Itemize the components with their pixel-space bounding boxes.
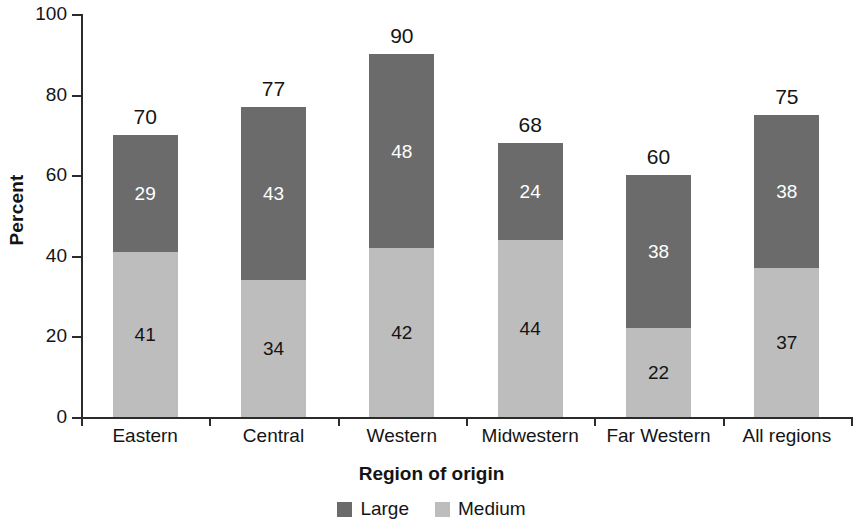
y-axis-tick-mark [72,14,81,16]
bar-segment-value: 29 [135,184,156,203]
legend-label: Large [360,498,409,520]
bar-group: 433477 [241,14,306,417]
x-axis-category-label: All regions [723,425,851,447]
x-axis-category-label: Central [209,425,337,447]
bar-segment-large[interactable]: 38 [626,175,691,328]
y-axis-tick-label: 80 [46,84,67,106]
bar-segment-value: 44 [520,319,541,338]
legend-item[interactable]: Medium [435,498,526,520]
x-axis-category-label: Eastern [81,425,209,447]
bar-segment-medium[interactable]: 22 [626,328,691,417]
bar-segment-medium[interactable]: 44 [498,240,563,417]
bar-stack[interactable]: 2444 [498,143,563,417]
bar-segment-value: 34 [263,339,284,358]
bar-group: 294170 [113,14,178,417]
bar-segment-medium[interactable]: 41 [113,252,178,417]
x-axis-category-label: Far Western [594,425,722,447]
plot-area: 020406080100 294170433477484290244468382… [81,14,851,417]
bar-total-label: 60 [626,145,691,169]
bar-segment-large[interactable]: 48 [369,54,434,247]
y-axis-tick-label: 0 [56,406,67,428]
y-axis-tick-mark [72,256,81,258]
bar-segment-medium[interactable]: 37 [754,268,819,417]
bar-segment-large[interactable]: 38 [754,115,819,268]
bar-segment-value: 42 [391,323,412,342]
bar-group: 484290 [369,14,434,417]
legend-swatch-icon [435,502,450,517]
bar-stack[interactable]: 2941 [113,135,178,417]
bar-total-label: 68 [498,113,563,137]
legend-swatch-icon [337,502,352,517]
bar-segment-value: 38 [648,242,669,261]
y-axis-tick-mark [72,175,81,177]
chart-legend: LargeMedium [0,498,863,520]
bar-total-label: 90 [369,24,434,48]
legend-item[interactable]: Large [337,498,409,520]
x-axis-category-label: Western [338,425,466,447]
bar-stack[interactable]: 3837 [754,115,819,417]
bar-group: 383775 [754,14,819,417]
bar-segment-value: 24 [520,182,541,201]
bar-group: 244468 [498,14,563,417]
y-axis-tick-mark [72,336,81,338]
stacked-bar-chart: Percent 020406080100 2941704334774842902… [0,0,863,530]
y-axis-title-text: Percent [6,174,28,245]
bar-segment-medium[interactable]: 34 [241,280,306,417]
bar-segment-value: 43 [263,184,284,203]
bar-segment-value: 22 [648,363,669,382]
y-axis-tick-label: 40 [46,245,67,267]
legend-label: Medium [458,498,526,520]
x-axis-title: Region of origin [0,463,863,485]
y-axis-tick-label: 60 [46,164,67,186]
bar-segment-large[interactable]: 43 [241,107,306,280]
bar-total-label: 75 [754,85,819,109]
bar-segment-value: 37 [776,333,797,352]
y-axis-tick-label: 20 [46,325,67,347]
y-axis-tick-mark [72,417,81,419]
y-axis-title: Percent [0,0,34,420]
bar-segment-value: 48 [391,142,412,161]
bar-segment-value: 38 [776,182,797,201]
bar-segment-large[interactable]: 24 [498,143,563,240]
bar-segment-large[interactable]: 29 [113,135,178,252]
bar-total-label: 77 [241,77,306,101]
x-axis-tick-mark [851,417,853,426]
bar-stack[interactable]: 4334 [241,107,306,417]
bar-segment-medium[interactable]: 42 [369,248,434,417]
bar-total-label: 70 [113,105,178,129]
x-axis-category-label: Midwestern [466,425,594,447]
y-axis-tick-label: 100 [35,3,67,25]
bar-stack[interactable]: 3822 [626,175,691,417]
y-axis-tick-mark [72,95,81,97]
bar-stack[interactable]: 4842 [369,54,434,417]
bar-group: 382260 [626,14,691,417]
y-axis-line [81,14,83,417]
bar-segment-value: 41 [135,325,156,344]
